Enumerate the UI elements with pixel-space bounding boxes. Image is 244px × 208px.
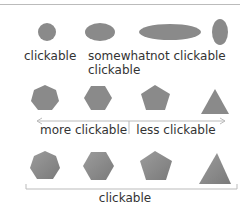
bracket-line [26,184,237,189]
label-more-clickable: more clickable [40,124,125,137]
tall-ellipse-shape [212,19,228,45]
row1-shapes [0,0,244,50]
heptagon-shaded-shape [30,151,60,179]
label-clickable-bottom: clickable [95,192,155,205]
triangle-shape [201,89,229,114]
small-ellipse-shape [85,23,115,41]
circle-shape [38,23,56,41]
wide-ellipse-shape [139,24,201,40]
label-somewhat-line1: somewhat [76,50,148,63]
pentagon-shaded-shape [140,151,172,180]
hexagon-shape [84,86,112,110]
heptagon-shape [31,85,59,110]
label-clickable: clickable [24,50,74,63]
hexagon-shaded-shape [83,152,114,180]
triangle-shaded-shape [199,153,231,184]
label-less-clickable: less clickable [136,124,216,137]
label-not-clickable: not clickable [150,50,220,63]
pentagon-shape [141,85,170,110]
